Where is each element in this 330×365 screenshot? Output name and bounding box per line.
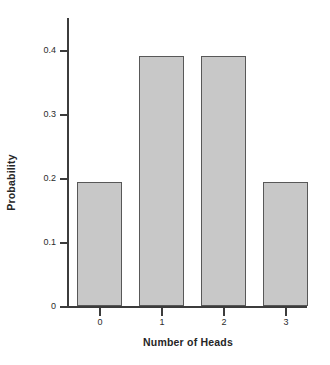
x-tick-label-0: 0 (88, 318, 112, 327)
y-axis-line (67, 18, 69, 308)
x-tick-mark-3 (285, 308, 287, 316)
bar-0 (77, 182, 122, 306)
y-tick-label-3: 0.3 (16, 110, 56, 119)
x-axis-title: Number of Heads (68, 336, 308, 348)
y-tick-label-1: 0.1 (16, 238, 56, 247)
y-tick-mark-3 (60, 114, 68, 116)
x-axis-line (67, 306, 307, 308)
x-tick-label-3: 3 (274, 318, 298, 327)
x-tick-mark-2 (223, 308, 225, 316)
bar-chart: Probability 0 0.1 0.2 0.3 0.4 0 1 2 3 Nu… (0, 0, 330, 365)
y-tick-label-4: 0.4 (16, 46, 56, 55)
x-tick-mark-0 (99, 308, 101, 316)
y-tick-mark-0 (60, 306, 68, 308)
y-tick-mark-1 (60, 242, 68, 244)
x-tick-label-2: 2 (212, 318, 236, 327)
bar-3 (263, 182, 308, 306)
x-tick-label-1: 1 (150, 318, 174, 327)
y-tick-label-0: 0 (16, 302, 56, 311)
x-tick-mark-1 (161, 308, 163, 316)
bar-1 (139, 56, 184, 306)
y-tick-mark-2 (60, 178, 68, 180)
y-tick-label-2: 0.2 (16, 174, 56, 183)
bar-2 (201, 56, 246, 306)
y-tick-mark-4 (60, 50, 68, 52)
